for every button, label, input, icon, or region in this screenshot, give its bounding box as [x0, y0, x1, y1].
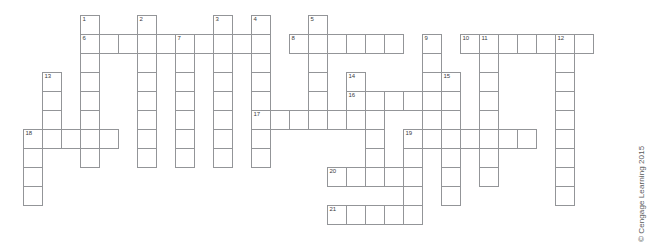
- crossword-cell[interactable]: [137, 53, 157, 73]
- crossword-cell[interactable]: [422, 72, 442, 92]
- crossword-cell[interactable]: [479, 167, 499, 187]
- crossword-cell[interactable]: [403, 148, 423, 168]
- crossword-cell[interactable]: [80, 53, 100, 73]
- crossword-cell-13[interactable]: 13: [42, 72, 62, 92]
- crossword-cell[interactable]: [175, 110, 195, 130]
- crossword-cell[interactable]: [308, 91, 328, 111]
- crossword-cell[interactable]: [479, 110, 499, 130]
- crossword-cell[interactable]: [175, 72, 195, 92]
- crossword-cell[interactable]: [175, 129, 195, 149]
- crossword-cell[interactable]: [213, 91, 233, 111]
- crossword-cell[interactable]: [479, 91, 499, 111]
- crossword-cell[interactable]: [61, 129, 81, 149]
- crossword-cell[interactable]: [80, 72, 100, 92]
- crossword-cell[interactable]: [251, 129, 271, 149]
- crossword-cell[interactable]: [80, 129, 100, 149]
- crossword-cell[interactable]: [251, 72, 271, 92]
- crossword-cell[interactable]: [479, 72, 499, 92]
- crossword-cell[interactable]: [137, 34, 157, 54]
- crossword-cell[interactable]: [327, 34, 347, 54]
- crossword-cell[interactable]: [137, 72, 157, 92]
- crossword-cell[interactable]: [517, 129, 537, 149]
- crossword-cell-17[interactable]: 17: [251, 110, 271, 130]
- crossword-cell-15[interactable]: 15: [441, 72, 461, 92]
- crossword-cell[interactable]: [289, 110, 309, 130]
- crossword-cell[interactable]: [175, 148, 195, 168]
- crossword-cell[interactable]: [80, 91, 100, 111]
- crossword-cell-6[interactable]: 6: [80, 34, 100, 54]
- crossword-cell[interactable]: [308, 110, 328, 130]
- crossword-cell[interactable]: [232, 34, 252, 54]
- crossword-cell[interactable]: [365, 167, 385, 187]
- crossword-cell[interactable]: [441, 148, 461, 168]
- crossword-cell-9[interactable]: 9: [422, 34, 442, 54]
- crossword-cell[interactable]: [251, 91, 271, 111]
- crossword-cell[interactable]: [479, 148, 499, 168]
- crossword-cell[interactable]: [555, 129, 575, 149]
- crossword-cell[interactable]: [346, 205, 366, 225]
- crossword-cell[interactable]: [346, 167, 366, 187]
- crossword-cell[interactable]: [118, 34, 138, 54]
- crossword-cell[interactable]: [213, 110, 233, 130]
- crossword-cell[interactable]: [213, 34, 233, 54]
- crossword-cell[interactable]: [213, 72, 233, 92]
- crossword-cell-1[interactable]: 1: [80, 15, 100, 35]
- crossword-cell[interactable]: [23, 186, 43, 206]
- crossword-cell[interactable]: [308, 34, 328, 54]
- crossword-cell[interactable]: [346, 34, 366, 54]
- crossword-cell[interactable]: [479, 53, 499, 73]
- crossword-cell[interactable]: [23, 148, 43, 168]
- crossword-cell[interactable]: [42, 129, 62, 149]
- crossword-cell-3[interactable]: 3: [213, 15, 233, 35]
- crossword-cell-10[interactable]: 10: [460, 34, 480, 54]
- crossword-cell[interactable]: [99, 129, 119, 149]
- crossword-cell[interactable]: [441, 91, 461, 111]
- crossword-cell[interactable]: [536, 34, 556, 54]
- crossword-cell[interactable]: [441, 129, 461, 149]
- crossword-cell[interactable]: [384, 167, 404, 187]
- crossword-cell[interactable]: [555, 110, 575, 130]
- crossword-cell[interactable]: [137, 110, 157, 130]
- crossword-cell[interactable]: [80, 110, 100, 130]
- crossword-cell[interactable]: [251, 148, 271, 168]
- crossword-cell[interactable]: [441, 186, 461, 206]
- crossword-cell[interactable]: [365, 205, 385, 225]
- crossword-cell-21[interactable]: 21: [327, 205, 347, 225]
- crossword-cell-2[interactable]: 2: [137, 15, 157, 35]
- crossword-cell[interactable]: [365, 91, 385, 111]
- crossword-cell[interactable]: [365, 110, 385, 130]
- crossword-cell[interactable]: [384, 91, 404, 111]
- crossword-cell-4[interactable]: 4: [251, 15, 271, 35]
- crossword-cell-18[interactable]: 18: [23, 129, 43, 149]
- crossword-cell[interactable]: [194, 34, 214, 54]
- crossword-cell[interactable]: [441, 167, 461, 187]
- crossword-cell[interactable]: [422, 91, 442, 111]
- crossword-cell[interactable]: [555, 91, 575, 111]
- crossword-cell[interactable]: [137, 91, 157, 111]
- crossword-cell[interactable]: [80, 148, 100, 168]
- crossword-cell[interactable]: [308, 72, 328, 92]
- crossword-cell-12[interactable]: 12: [555, 34, 575, 54]
- crossword-cell-5[interactable]: 5: [308, 15, 328, 35]
- crossword-cell-14[interactable]: 14: [346, 72, 366, 92]
- crossword-cell[interactable]: [555, 72, 575, 92]
- crossword-cell[interactable]: [498, 34, 518, 54]
- crossword-cell[interactable]: [403, 205, 423, 225]
- crossword-cell[interactable]: [441, 110, 461, 130]
- crossword-cell-8[interactable]: 8: [289, 34, 309, 54]
- crossword-cell[interactable]: [137, 129, 157, 149]
- crossword-cell[interactable]: [175, 53, 195, 73]
- crossword-cell[interactable]: [403, 91, 423, 111]
- crossword-cell[interactable]: [365, 34, 385, 54]
- crossword-cell[interactable]: [42, 91, 62, 111]
- crossword-cell[interactable]: [517, 34, 537, 54]
- crossword-cell[interactable]: [479, 129, 499, 149]
- crossword-cell[interactable]: [327, 110, 347, 130]
- crossword-cell[interactable]: [555, 186, 575, 206]
- crossword-cell-19[interactable]: 19: [403, 129, 423, 149]
- crossword-cell[interactable]: [422, 110, 442, 130]
- crossword-cell-11[interactable]: 11: [479, 34, 499, 54]
- crossword-cell[interactable]: [403, 186, 423, 206]
- crossword-cell[interactable]: [346, 110, 366, 130]
- crossword-cell[interactable]: [213, 129, 233, 149]
